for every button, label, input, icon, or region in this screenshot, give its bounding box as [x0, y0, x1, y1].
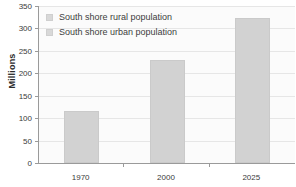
y-axis-tick-mark: [35, 96, 39, 97]
gridline: [39, 6, 295, 7]
legend-label: South shore urban population: [59, 27, 177, 37]
y-axis-tick-mark: [35, 51, 39, 52]
legend-item: South shore urban population: [46, 27, 177, 37]
y-axis-tick-label: 100: [4, 114, 32, 123]
legend-label: South shore rural population: [59, 12, 172, 22]
y-axis-tick-mark: [35, 6, 39, 7]
x-axis-tick-label: 2000: [136, 173, 196, 182]
x-axis-tick-mark: [209, 163, 210, 167]
y-axis-tick-label: 300: [4, 24, 32, 33]
bar-2025: [235, 18, 270, 163]
x-axis-tick-mark: [123, 163, 124, 167]
x-axis-tick-label: 1970: [51, 173, 111, 182]
legend-item: South shore rural population: [46, 12, 177, 22]
legend-swatch-icon: [46, 29, 53, 36]
y-axis-tick-label: 150: [4, 91, 32, 100]
bar-2000: [150, 60, 185, 163]
y-axis-tick-label: 200: [4, 69, 32, 78]
y-axis-tick-label: 350: [4, 2, 32, 11]
x-axis-tick-label: 2025: [221, 173, 281, 182]
y-axis-tick-label: 0: [4, 159, 32, 168]
chart-legend: South shore rural populationSouth shore …: [46, 12, 177, 37]
y-axis-tick-mark: [35, 28, 39, 29]
y-axis-tick-mark: [35, 73, 39, 74]
y-axis-tick-label: 50: [4, 136, 32, 145]
x-axis: 197020002025: [38, 163, 294, 187]
y-axis-tick-label: 250: [4, 46, 32, 55]
bar-chart: Millions 050100150200250300350 197020002…: [0, 0, 296, 187]
legend-swatch-icon: [46, 14, 53, 21]
y-axis-tick-mark: [35, 141, 39, 142]
bar-1970: [64, 111, 99, 163]
y-axis-tick-mark: [35, 118, 39, 119]
